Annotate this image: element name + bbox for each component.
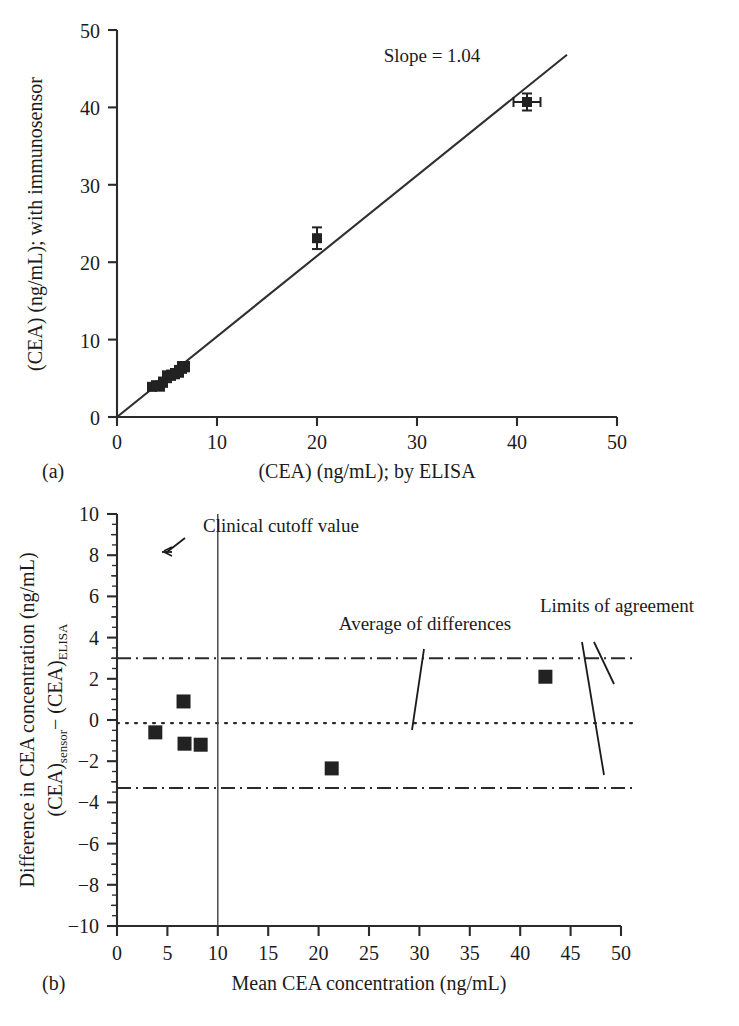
panel-a-x-axis-title: (CEA) (ng/mL); by ELISA bbox=[258, 460, 476, 483]
panel-a-xtick-30: 30 bbox=[407, 431, 427, 453]
panel-b-xtick-label: 50 bbox=[611, 942, 631, 964]
panel-a-y-axis-title: (CEA) (ng/mL); with immunosensor bbox=[24, 77, 47, 371]
panel-b-limits-annotation: Limits of agreement bbox=[540, 595, 695, 616]
panel-b-letter: (b) bbox=[42, 972, 65, 995]
data-point-marker bbox=[522, 97, 532, 107]
panel-a-y-ticks: 0 10 20 30 40 50 bbox=[80, 20, 117, 429]
panel-b-xtick-label: 45 bbox=[561, 942, 581, 964]
panel-b-ytick-label: −4 bbox=[78, 791, 99, 813]
panel-b-ylabel-sub-elisa: ELISA bbox=[55, 623, 70, 660]
panel-b-xtick-label: 35 bbox=[460, 942, 480, 964]
figure-container: 0 10 20 30 40 50 0 10 20 30 40 50 bbox=[0, 0, 739, 1026]
panel-b-y-ticks: −10−8−6−4−20246810 bbox=[68, 503, 117, 937]
panel-b-cutoff-leader bbox=[167, 538, 185, 552]
panel-a-slope-annotation: Slope = 1.04 bbox=[384, 45, 481, 66]
panel-a-x-ticks: 0 10 20 30 40 50 bbox=[112, 417, 627, 453]
panel-b-xtick-label: 5 bbox=[162, 942, 172, 964]
panel-a-ytick-30: 30 bbox=[80, 175, 100, 197]
panel-b-svg: −10−8−6−4−20246810 05101520253035404550 … bbox=[0, 492, 739, 1026]
panel-a-correlation-plot: 0 10 20 30 40 50 0 10 20 30 40 50 bbox=[0, 0, 739, 492]
panel-b-ytick-label: 4 bbox=[89, 627, 99, 649]
panel-a-letter: (a) bbox=[42, 460, 64, 483]
panel-b-xtick-label: 30 bbox=[409, 942, 429, 964]
panel-b-ytick-label: −10 bbox=[68, 915, 99, 937]
data-point-marker bbox=[180, 362, 190, 372]
panel-b-limits-leader-lower bbox=[582, 642, 604, 775]
panel-b-average-annotation: Average of differences bbox=[339, 613, 511, 634]
panel-b-x-axis-title: Mean CEA concentration (ng/mL) bbox=[232, 972, 507, 995]
panel-b-xtick-label: 10 bbox=[208, 942, 228, 964]
panel-b-xtick-label: 15 bbox=[258, 942, 278, 964]
panel-a-xtick-0: 0 bbox=[112, 431, 122, 453]
panel-b-ytick-label: 6 bbox=[89, 585, 99, 607]
data-point-marker bbox=[325, 761, 339, 775]
data-point-marker bbox=[194, 738, 208, 752]
panel-b-y-axis-title-line1: Difference in CEA concentration (ng/mL) bbox=[16, 552, 39, 887]
panel-a-ytick-10: 10 bbox=[80, 330, 100, 352]
panel-a-ytick-50: 50 bbox=[80, 20, 100, 42]
panel-a-xtick-20: 20 bbox=[307, 431, 327, 453]
data-point-marker bbox=[178, 737, 192, 751]
panel-b-limits-leader-upper bbox=[594, 642, 614, 684]
panel-b-ytick-label: 2 bbox=[89, 668, 99, 690]
panel-a-xtick-10: 10 bbox=[207, 431, 227, 453]
panel-b-ylabel-sub-sensor: sensor bbox=[55, 729, 70, 763]
panel-a-ytick-0: 0 bbox=[90, 407, 100, 429]
panel-a-ytick-20: 20 bbox=[80, 252, 100, 274]
panel-b-xtick-label: 40 bbox=[510, 942, 530, 964]
panel-a-xtick-40: 40 bbox=[507, 431, 527, 453]
panel-b-average-leader bbox=[412, 649, 424, 730]
panel-b-ytick-label: −2 bbox=[78, 750, 99, 772]
panel-b-ytick-label: −6 bbox=[78, 833, 99, 855]
data-point-marker bbox=[148, 725, 162, 739]
data-point-marker bbox=[177, 694, 191, 708]
panel-b-ylabel-cea-sensor: (CEA) bbox=[44, 763, 67, 816]
panel-b-ytick-label: 0 bbox=[89, 709, 99, 731]
panel-a-svg: 0 10 20 30 40 50 0 10 20 30 40 50 bbox=[0, 0, 739, 492]
panel-b-ytick-label: 8 bbox=[89, 544, 99, 566]
data-point-marker bbox=[538, 670, 552, 684]
panel-a-ytick-40: 40 bbox=[80, 97, 100, 119]
panel-b-ytick-label: −8 bbox=[78, 874, 99, 896]
panel-a-data-points bbox=[147, 93, 541, 391]
panel-b-xtick-label: 0 bbox=[112, 942, 122, 964]
panel-b-xtick-label: 25 bbox=[359, 942, 379, 964]
panel-b-cutoff-annotation: Clinical cutoff value bbox=[203, 515, 359, 536]
panel-b-bland-altman-plot: −10−8−6−4−20246810 05101520253035404550 … bbox=[0, 492, 739, 1026]
panel-b-y-axis-title-line2: (CEA)sensor− (CEA)ELISA bbox=[44, 623, 70, 817]
panel-b-ytick-label: 10 bbox=[79, 503, 99, 525]
panel-b-ylabel-minus-cea: − (CEA) bbox=[44, 660, 67, 730]
data-point-marker bbox=[312, 233, 322, 243]
panel-b-x-ticks: 05101520253035404550 bbox=[112, 926, 631, 964]
panel-b-xtick-label: 20 bbox=[309, 942, 329, 964]
panel-a-xtick-50: 50 bbox=[607, 431, 627, 453]
